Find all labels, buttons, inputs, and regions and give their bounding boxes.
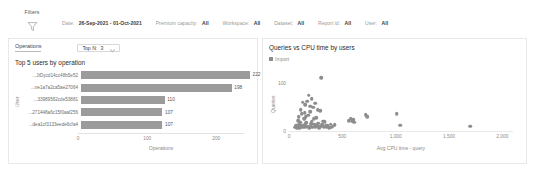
bar-chart-rows: JtDycd14cc48b5e52... 222 ne1a7a2ca5ae270… [22, 69, 250, 131]
filter-key-dataset: Dataset: [274, 20, 293, 26]
x-axis-tick: 0 [288, 134, 291, 139]
x-axis-tick: 1,500 [443, 134, 455, 139]
bar-chart-title: Top 5 users by operation [15, 59, 85, 66]
chevron-down-icon[interactable] [109, 39, 116, 57]
bar-fill [81, 71, 250, 79]
bar-fill [81, 96, 165, 104]
scatter-x-axis-label: Avg CPU time - query [377, 145, 425, 151]
scatter-point[interactable] [395, 112, 399, 116]
x-axis-tick: 0 [77, 136, 80, 141]
filter-value-user: All [382, 20, 389, 26]
filter-value-premium-capacity: All [202, 20, 209, 26]
scatter-point[interactable] [299, 108, 303, 112]
scatter-point[interactable] [333, 123, 337, 127]
scatter-point[interactable] [313, 102, 317, 106]
scatter-point[interactable] [350, 120, 354, 124]
filter-item-date[interactable]: Date: 26-Sep-2021 - 01-Oct-2021 [62, 11, 146, 28]
scatter-point[interactable] [469, 124, 473, 128]
x-axis-tick: 200 [212, 136, 220, 141]
scatter-point[interactable] [399, 123, 403, 127]
filters-pane[interactable]: Filters [8, 6, 56, 29]
bar-category-label: ne1a7a2ca5ae27064... [22, 85, 81, 90]
scatter-legend[interactable]: Import [269, 56, 289, 62]
bar-track: 222 [81, 69, 250, 81]
top-n-value: 3 [100, 45, 103, 51]
scatter-point[interactable] [303, 111, 307, 115]
scatter-point[interactable] [303, 103, 307, 107]
scatter-point[interactable] [316, 108, 320, 112]
scatter-point[interactable] [366, 115, 370, 119]
scatter-point[interactable] [317, 125, 321, 129]
scatter-point[interactable] [308, 104, 312, 108]
filter-key-workspace: Workspace: [222, 20, 249, 26]
bar-value-label: 198 [234, 85, 242, 90]
scatter-point[interactable] [312, 117, 316, 121]
filter-item-report-id[interactable]: Report id: All [318, 11, 356, 28]
bar-category-label: JtDycd14cc48b5e52... [22, 73, 81, 78]
filter-key-user: User: [365, 20, 377, 26]
scatter-point[interactable] [321, 120, 325, 124]
bar-chart-x-axis: 0 100 200 Operations [78, 133, 244, 153]
filter-key-report-id: Report id: [318, 20, 340, 26]
bar-fill [81, 84, 232, 92]
bar-chart-x-axis-label: Operations [149, 145, 173, 151]
funnel-icon[interactable] [27, 18, 38, 29]
filter-item-premium-capacity[interactable]: Premium capacity: All [156, 11, 213, 28]
card-top-users-by-operation: Operations Top N: 3 Top 5 users by opera… [8, 38, 258, 164]
left-card-header: Operations Top N: 3 [15, 43, 251, 52]
filter-key-premium-capacity: Premium capacity: [156, 20, 198, 26]
bar-value-label: 107 [165, 110, 173, 115]
filter-item-workspace[interactable]: Workspace: All [222, 11, 264, 28]
filter-value-workspace: All [254, 20, 261, 26]
bar-row[interactable]: dea1cf3133eede6cfa4... 107 [22, 119, 250, 131]
x-axis-tick: 1,000 [390, 134, 402, 139]
bar-row[interactable]: JtDycd14cc48b5e52... 222 [22, 69, 250, 81]
bar-row[interactable]: 271448a6c15f0aaf256... 107 [22, 106, 250, 118]
y-axis-tick: 0 [283, 129, 286, 134]
bar-category-label: 271448a6c15f0aaf256... [22, 110, 81, 115]
scatter-chart: Queries 0 100 0 500 1,000 1,500 2,000 Av… [267, 65, 523, 161]
scatter-plot-area[interactable]: 0 100 [289, 69, 513, 131]
scatter-point[interactable] [309, 122, 313, 126]
scatter-point[interactable] [324, 124, 328, 128]
tab-operations[interactable]: Operations [15, 43, 41, 52]
top-n-label: Top N: [82, 45, 97, 51]
scatter-point[interactable] [308, 110, 312, 114]
bar-track: 110 [81, 94, 250, 106]
filter-key-date: Date: [62, 20, 74, 26]
x-axis-line [78, 133, 244, 134]
filter-item-dataset[interactable]: Dataset: All [274, 11, 308, 28]
dashboard-page: Filters Date: 26-Sep-2021 - 01-Oct-2021 … [0, 0, 533, 169]
filter-value-date: 26-Sep-2021 - 01-Oct-2021 [79, 20, 142, 26]
bar-fill [81, 108, 162, 116]
legend-swatch-import [269, 57, 273, 61]
bar-row[interactable]: 33989562cde53881... 110 [22, 94, 250, 106]
scatter-chart-title: Queries vs CPU time by users [269, 44, 355, 51]
x-axis-tick: 100 [143, 136, 151, 141]
bar-value-label: 110 [167, 97, 175, 102]
bar-value-label: 222 [253, 72, 261, 77]
filter-value-report-id: All [345, 20, 352, 26]
filter-item-user[interactable]: User: All [365, 11, 388, 28]
filter-summary: Date: 26-Sep-2021 - 01-Oct-2021 Premium … [56, 6, 525, 29]
filters-label: Filters [25, 9, 40, 15]
bar-track: 107 [81, 119, 250, 131]
bar-row[interactable]: ne1a7a2ca5ae27064... 198 [22, 81, 250, 93]
scatter-point[interactable] [312, 105, 316, 109]
scatter-point[interactable] [319, 76, 323, 80]
scatter-point[interactable] [310, 97, 314, 101]
filter-bar: Filters Date: 26-Sep-2021 - 01-Oct-2021 … [8, 6, 525, 34]
y-axis-tick: 100 [278, 81, 286, 86]
bar-value-label: 107 [165, 122, 173, 127]
top-n-dropdown[interactable]: Top N: 3 [77, 44, 120, 52]
bar-category-label: 33989562cde53881... [22, 97, 81, 102]
scatter-x-axis-line [289, 131, 513, 132]
bar-category-label: dea1cf3133eede6cfa4... [22, 122, 81, 127]
scatter-point[interactable] [304, 115, 308, 119]
card-queries-vs-cpu-time: Queries vs CPU time by users Import Quer… [262, 38, 527, 164]
legend-label-import: Import [275, 56, 289, 62]
bar-chart: User JtDycd14cc48b5e52... 222 ne1a7a2ca5… [13, 67, 253, 159]
scatter-point[interactable] [305, 100, 309, 104]
x-axis-tick: 500 [338, 134, 346, 139]
filter-value-dataset: All [298, 20, 305, 26]
